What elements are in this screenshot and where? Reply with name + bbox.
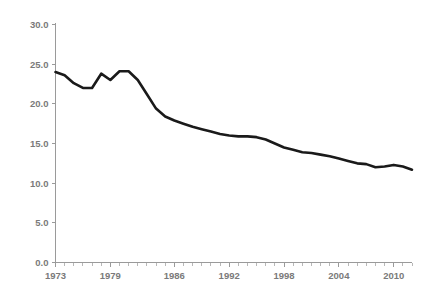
chart-background — [0, 0, 442, 301]
y-tick-label: 20.0 — [30, 98, 49, 109]
y-tick-label: 0.0 — [35, 257, 48, 268]
x-tick-label: 1973 — [45, 270, 66, 281]
y-tick-label: 25.0 — [30, 59, 49, 70]
x-tick-label: 1986 — [164, 270, 185, 281]
y-tick-label: 15.0 — [30, 138, 49, 149]
chart-canvas: 0.05.010.015.020.025.030.0 1973197919861… — [0, 0, 442, 301]
x-tick-label: 1992 — [219, 270, 240, 281]
x-tick-label: 1998 — [273, 270, 294, 281]
line-chart: 0.05.010.015.020.025.030.0 1973197919861… — [0, 0, 442, 301]
y-tick-label: 10.0 — [30, 178, 49, 189]
x-tick-label: 2004 — [328, 270, 350, 281]
x-tick-label: 1979 — [100, 270, 121, 281]
y-tick-label: 30.0 — [30, 19, 49, 30]
x-tick-label: 2010 — [383, 270, 404, 281]
y-tick-label: 5.0 — [35, 217, 48, 228]
